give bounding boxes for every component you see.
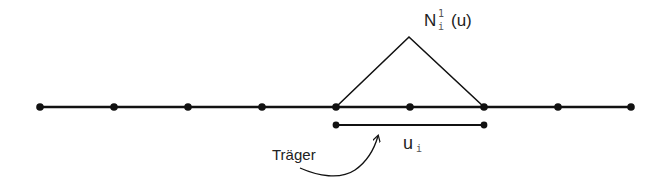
knot-point <box>36 103 44 111</box>
knot-point <box>258 103 266 111</box>
knot-point <box>184 103 192 111</box>
support-label: Träger <box>272 146 316 163</box>
knot-point <box>480 103 488 111</box>
interval-label: u i <box>403 133 422 154</box>
basis-function-label: N 1 i (u) <box>424 8 472 32</box>
knot-point <box>332 103 340 111</box>
interval-label-base: u <box>403 133 413 153</box>
knot-point <box>554 103 562 111</box>
interval-label-subscript: i <box>416 143 422 154</box>
knot-point <box>406 103 414 111</box>
basis-function-superscript: 1 <box>438 8 444 19</box>
basis-function-subscript: i <box>438 21 444 32</box>
basis-function-base: N <box>424 11 436 30</box>
knot-point <box>110 103 118 111</box>
knot-point <box>627 103 635 111</box>
b-spline-basis-diagram: N 1 i (u) u i Träger <box>0 0 664 184</box>
support-end-point <box>481 122 488 129</box>
hat-function-curve <box>336 37 484 107</box>
support-start-point <box>333 122 340 129</box>
basis-function-argument: (u) <box>451 11 472 30</box>
